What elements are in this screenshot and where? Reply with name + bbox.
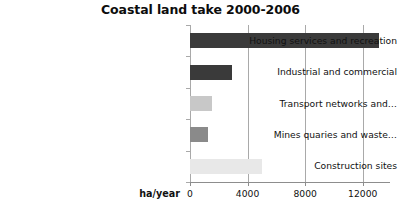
category-label-2: Transport networks and… <box>215 98 401 109</box>
category-label-0: Housing services and recreation <box>215 35 401 46</box>
bar-3[interactable] <box>190 127 208 142</box>
y-tick-mark-0 <box>186 25 190 26</box>
y-tick-mark-1 <box>186 56 190 57</box>
x-tick-mark-4000 <box>248 182 249 186</box>
x-tick-mark-12000 <box>363 182 364 186</box>
y-tick-mark-5 <box>186 182 190 183</box>
bar-2[interactable] <box>190 96 212 111</box>
x-tick-label-4000: 4000 <box>236 188 259 199</box>
x-axis-line <box>186 182 390 183</box>
x-tick-mark-8000 <box>305 182 306 186</box>
x-tick-mark-0 <box>190 182 191 186</box>
bar-chart: Coastal land take 2000-2006 Housing serv… <box>0 0 401 214</box>
category-label-3: Mines quaries and waste… <box>215 129 401 140</box>
chart-title: Coastal land take 2000-2006 <box>0 2 401 17</box>
x-tick-label-0: 0 <box>187 188 193 199</box>
y-tick-mark-2 <box>186 88 190 89</box>
x-tick-label-12000: 12000 <box>348 188 377 199</box>
y-tick-mark-3 <box>186 119 190 120</box>
y-tick-mark-4 <box>186 151 190 152</box>
category-label-4: Construction sites <box>215 160 401 171</box>
category-label-1: Industrial and commercial <box>215 66 401 77</box>
x-tick-label-8000: 8000 <box>293 188 316 199</box>
x-axis-title: ha/year <box>100 188 180 199</box>
